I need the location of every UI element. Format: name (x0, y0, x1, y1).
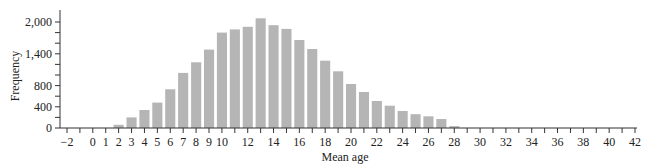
x-tick-label: 4 (141, 135, 147, 149)
x-tick-label: 40 (603, 135, 615, 149)
y-tick-label: 0 (46, 121, 52, 135)
histogram-bar (359, 92, 369, 128)
x-tick-label: 26 (422, 135, 434, 149)
histogram-bar (127, 117, 137, 128)
x-tick-label: 2 (116, 135, 122, 149)
histogram-bar (294, 40, 304, 128)
y-tick-label: 400 (34, 100, 52, 114)
x-tick-label: 18 (319, 135, 331, 149)
x-tick-label: 5 (154, 135, 160, 149)
histogram-bar (320, 61, 330, 128)
histogram-bar (269, 25, 279, 128)
histogram-bar (243, 27, 253, 128)
histogram-bar (178, 73, 188, 128)
histogram-bar (411, 114, 421, 128)
histogram-chart: Mean age Frequency 04008001,4002,000 −20… (0, 0, 652, 167)
x-tick-label: 0 (90, 135, 96, 149)
histogram-bar (346, 84, 356, 128)
bars-group (114, 18, 460, 128)
x-tick-label: −2 (61, 135, 74, 149)
histogram-bar (385, 106, 395, 128)
chart-canvas: 04008001,4002,000 −201234567891012141618… (0, 0, 652, 167)
histogram-bar (139, 110, 149, 128)
x-tick-label: 36 (552, 135, 564, 149)
x-tick-label: 42 (629, 135, 641, 149)
histogram-bar (165, 89, 175, 128)
x-axis-title: Mean age (322, 150, 369, 164)
histogram-bar (436, 119, 446, 128)
x-tick-label: 34 (526, 135, 538, 149)
histogram-bar (230, 29, 240, 128)
x-tick-label: 12 (242, 135, 254, 149)
histogram-bar (281, 29, 291, 128)
histogram-bar (191, 62, 201, 128)
histogram-bar (398, 111, 408, 128)
y-tick-label: 2,000 (25, 15, 52, 29)
y-axis-title: Frequency (8, 51, 22, 102)
histogram-bar (307, 49, 317, 128)
y-axis: 04008001,4002,000 (25, 10, 60, 135)
x-tick-label: 9 (206, 135, 212, 149)
y-tick-label: 800 (34, 79, 52, 93)
x-tick-label: 3 (129, 135, 135, 149)
x-tick-label: 32 (500, 135, 512, 149)
histogram-bar (423, 116, 433, 128)
histogram-bar (333, 71, 343, 128)
x-tick-label: 10 (216, 135, 228, 149)
x-tick-label: 22 (371, 135, 383, 149)
histogram-bar (152, 103, 162, 128)
y-tick-label: 1,400 (25, 47, 52, 61)
x-tick-label: 8 (193, 135, 199, 149)
x-tick-label: 30 (474, 135, 486, 149)
x-tick-label: 1 (103, 135, 109, 149)
x-tick-label: 14 (268, 135, 280, 149)
x-tick-label: 20 (345, 135, 357, 149)
x-tick-label: 6 (167, 135, 173, 149)
x-tick-label: 16 (293, 135, 305, 149)
x-tick-label: 24 (397, 135, 409, 149)
histogram-bar (372, 101, 382, 128)
x-tick-label: 7 (180, 135, 186, 149)
x-axis: −201234567891012141618202224262830323436… (60, 128, 641, 149)
x-tick-label: 28 (448, 135, 460, 149)
histogram-bar (204, 50, 214, 128)
x-tick-label: 38 (577, 135, 589, 149)
histogram-bar (217, 33, 227, 128)
histogram-bar (256, 18, 266, 128)
